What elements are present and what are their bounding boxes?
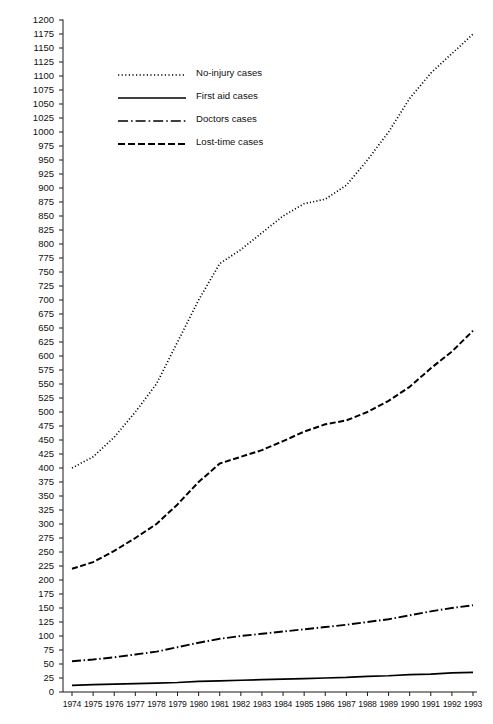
y-axis-tick-label: 125 [0, 617, 54, 627]
y-axis-tick-label: 100 [0, 631, 54, 641]
y-axis-tick-label: 500 [0, 407, 54, 417]
y-axis-tick-label: 950 [0, 155, 54, 165]
y-axis-tick-label: 825 [0, 225, 54, 235]
y-axis-tick-label: 800 [0, 239, 54, 249]
y-axis-tick-label: 1175 [0, 29, 54, 39]
series-line [72, 672, 473, 685]
legend-label: First aid cases [196, 90, 258, 101]
y-axis-tick-label: 1050 [0, 99, 54, 109]
y-axis-tick-label: 225 [0, 561, 54, 571]
y-axis-tick-label: 900 [0, 183, 54, 193]
y-axis-tick-label: 1100 [0, 71, 54, 81]
y-axis-tick-label: 175 [0, 589, 54, 599]
y-axis-tick-label: 875 [0, 197, 54, 207]
y-axis-tick-label: 700 [0, 295, 54, 305]
y-axis-tick-label: 750 [0, 267, 54, 277]
y-axis-tick-label: 1125 [0, 57, 54, 67]
y-axis-tick-label: 475 [0, 421, 54, 431]
legend-label: Doctors cases [196, 113, 257, 124]
y-axis-tick-label: 1000 [0, 127, 54, 137]
legend-label: No-injury cases [196, 67, 262, 78]
y-axis-tick-label: 400 [0, 463, 54, 473]
y-axis-tick-label: 1025 [0, 113, 54, 123]
y-axis-tick-label: 575 [0, 365, 54, 375]
y-axis-tick-label: 550 [0, 379, 54, 389]
y-axis-tick-label: 425 [0, 449, 54, 459]
series-line [72, 331, 473, 569]
y-axis-tick-label: 150 [0, 603, 54, 613]
y-axis-tick-label: 200 [0, 575, 54, 585]
y-axis-tick-label: 850 [0, 211, 54, 221]
series-line [72, 605, 473, 661]
y-axis-tick-label: 1150 [0, 43, 54, 53]
legend-swatch-dashed-icon [118, 141, 186, 147]
y-axis-tick-label: 975 [0, 141, 54, 151]
y-axis-tick-label: 0 [0, 687, 54, 697]
plot-area [0, 0, 493, 724]
legend-swatch-solid-icon [118, 95, 186, 101]
y-axis-tick-label: 775 [0, 253, 54, 263]
y-axis-tick-label: 1075 [0, 85, 54, 95]
y-axis-tick-label: 275 [0, 533, 54, 543]
y-axis-tick-label: 350 [0, 491, 54, 501]
y-axis-tick-label: 250 [0, 547, 54, 557]
y-axis-tick-label: 25 [0, 673, 54, 683]
y-axis-tick-label: 725 [0, 281, 54, 291]
y-axis-tick-label: 600 [0, 351, 54, 361]
y-axis-tick-label: 625 [0, 337, 54, 347]
y-axis-tick-label: 525 [0, 393, 54, 403]
y-axis-tick-label: 75 [0, 645, 54, 655]
y-axis-tick-label: 650 [0, 323, 54, 333]
line-chart: 0255075100125150175200225250275300325350… [0, 0, 493, 724]
y-axis-tick-label: 300 [0, 519, 54, 529]
x-axis-tick-label: 1993 [458, 700, 488, 709]
y-axis-tick-label: 675 [0, 309, 54, 319]
y-axis-tick-label: 925 [0, 169, 54, 179]
legend-swatch-dashdot-icon [118, 118, 186, 124]
y-axis-tick-label: 1200 [0, 15, 54, 25]
y-axis-tick-label: 450 [0, 435, 54, 445]
y-axis-tick-label: 375 [0, 477, 54, 487]
y-axis-tick-label: 325 [0, 505, 54, 515]
legend-swatch-dotted-icon [118, 72, 186, 78]
y-axis-tick-label: 50 [0, 659, 54, 669]
legend-label: Lost-time cases [196, 136, 263, 147]
